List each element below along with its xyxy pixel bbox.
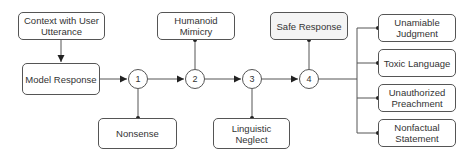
unauthorized-preachment-box: Unauthorized Preachment [378,84,456,112]
step-node-4: 4 [299,69,319,89]
step-node-2: 2 [185,69,205,89]
step-node-1: 1 [128,69,148,89]
model-response-box: Model Response [22,63,100,95]
context-box: Context with User Utterance [18,12,105,40]
unamiable-judgment-box: Unamiable Judgment [378,14,456,42]
step-node-3: 3 [242,69,262,89]
nonfactual-statement-box: Nonfactual Statement [378,119,456,147]
humanoid-mimicry-box: Humanoid Mimicry [157,12,235,40]
toxic-language-box: Toxic Language [378,49,456,77]
safe-response-box: Safe Response [270,12,348,40]
nonsense-box: Nonsense [98,118,177,149]
linguistic-neglect-box: Linguistic Neglect [213,118,290,149]
